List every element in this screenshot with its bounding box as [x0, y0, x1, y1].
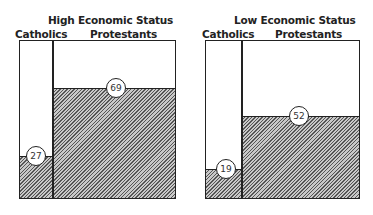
value-label-protestants: 69 [106, 78, 126, 98]
catholics-label: Catholics [15, 28, 67, 40]
bar-protestants [53, 88, 175, 198]
value-label-catholics: 27 [26, 146, 46, 166]
protestants-label: Protestants [90, 28, 157, 40]
chart-title: High Economic Status [48, 14, 173, 26]
category-divider [241, 40, 243, 199]
category-divider [52, 40, 54, 199]
value-label-protestants: 52 [289, 106, 309, 126]
chart-title: Low Economic Status [234, 14, 356, 26]
value-label-catholics: 19 [216, 159, 236, 179]
bar-protestants [242, 116, 359, 198]
protestants-label: Protestants [275, 28, 342, 40]
catholics-label: Catholics [202, 28, 254, 40]
